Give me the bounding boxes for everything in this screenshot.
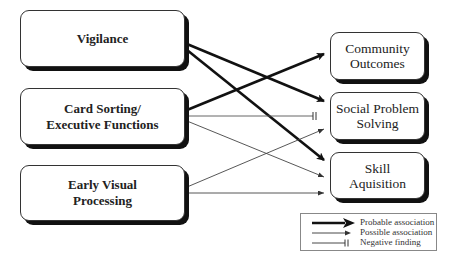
edge-early-social bbox=[187, 129, 324, 187]
edge-card-community bbox=[187, 54, 324, 110]
probable-arrow-icon bbox=[309, 218, 357, 228]
node-skill-label-2: Aquisition bbox=[349, 176, 406, 191]
node-social-label-1: Social Problem bbox=[336, 101, 419, 116]
legend: Probable association Possible associatio… bbox=[300, 213, 437, 251]
node-card-sorting-label-2: Executive Functions bbox=[46, 117, 158, 133]
node-community-label-1: Community bbox=[345, 41, 410, 56]
node-card-sorting-label-1: Card Sorting/ bbox=[46, 101, 158, 117]
legend-label-probable: Probable association bbox=[360, 217, 434, 227]
node-early-visual-label-1: Early Visual bbox=[68, 177, 137, 193]
edge-card-skill bbox=[187, 121, 324, 177]
legend-item-negative: Negative finding bbox=[301, 238, 436, 249]
edge-vigilance-skill bbox=[187, 50, 324, 160]
node-community-outcomes: Community Outcomes bbox=[330, 32, 425, 80]
node-skill-label-1: Skill bbox=[349, 161, 406, 176]
node-social-label-2: Solving bbox=[336, 116, 419, 131]
node-community-label-2: Outcomes bbox=[345, 56, 410, 71]
legend-label-negative: Negative finding bbox=[360, 237, 421, 247]
node-early-visual-label-2: Processing bbox=[68, 193, 137, 209]
node-early-visual: Early Visual Processing bbox=[20, 165, 185, 221]
node-social-problem-solving: Social Problem Solving bbox=[330, 92, 425, 140]
node-vigilance: Vigilance bbox=[20, 10, 185, 67]
node-skill-aquisition: Skill Aquisition bbox=[330, 152, 425, 199]
possible-arrow-icon bbox=[309, 228, 357, 238]
edge-vigilance-social bbox=[187, 44, 324, 101]
legend-label-possible: Possible association bbox=[360, 227, 432, 237]
node-card-sorting: Card Sorting/ Executive Functions bbox=[20, 88, 185, 145]
negative-finding-icon bbox=[309, 238, 357, 248]
node-vigilance-label: Vigilance bbox=[77, 31, 129, 47]
